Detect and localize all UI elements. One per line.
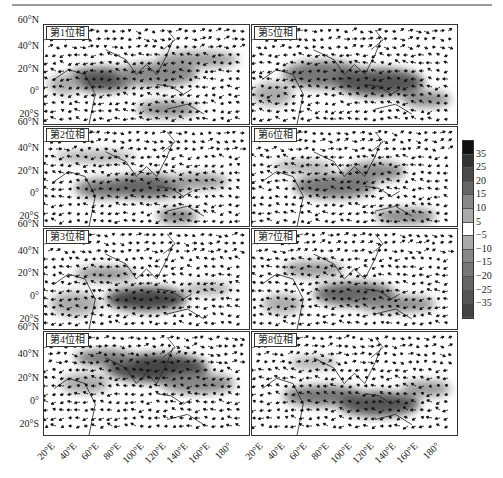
phase-label: 第3位相 bbox=[46, 230, 89, 244]
map-panel-phase-5: 第5位相 bbox=[251, 24, 458, 125]
y-tick-label: 20°N bbox=[3, 373, 39, 383]
colorbar-segment bbox=[463, 182, 473, 196]
y-tick-label: 0° bbox=[3, 291, 39, 301]
y-tick-label: 60°N bbox=[3, 15, 39, 25]
map-field bbox=[252, 229, 457, 329]
colorbar-label: 35 bbox=[476, 149, 486, 159]
y-tick-label: 20°N bbox=[3, 64, 39, 74]
y-tick-label: 20°S bbox=[3, 419, 39, 429]
colorbar-label: −5 bbox=[476, 230, 487, 240]
colorbar-segment bbox=[463, 155, 473, 169]
colorbar-label: 25 bbox=[476, 162, 486, 172]
y-tick-label: 60°N bbox=[3, 322, 39, 332]
map-panel-phase-6: 第6位相 bbox=[251, 126, 458, 227]
map-field bbox=[44, 229, 249, 329]
map-field bbox=[44, 332, 249, 435]
phase-label: 第8位相 bbox=[254, 333, 297, 347]
phase-label: 第5位相 bbox=[254, 26, 297, 40]
colorbar-segment bbox=[463, 141, 473, 155]
y-tick-label: 40°N bbox=[3, 246, 39, 256]
map-panel-phase-1: 第1位相 bbox=[43, 24, 250, 125]
colorbar-label: 20 bbox=[476, 176, 486, 186]
colorbar-segment bbox=[463, 195, 473, 209]
colorbar-segment bbox=[463, 291, 473, 305]
y-tick-label: 0° bbox=[3, 396, 39, 406]
phase-label: 第6位相 bbox=[254, 128, 297, 142]
colorbar-segment bbox=[463, 277, 473, 291]
phase-label: 第2位相 bbox=[46, 128, 89, 142]
colorbar-segment bbox=[463, 168, 473, 182]
phase-label: 第7位相 bbox=[254, 230, 297, 244]
y-tick-label: 20°N bbox=[3, 166, 39, 176]
y-tick-label: 20°N bbox=[3, 268, 39, 278]
y-tick-label: 0° bbox=[3, 86, 39, 96]
colorbar-label: −20 bbox=[476, 271, 492, 281]
map-panel-phase-2: 第2位相 bbox=[43, 126, 250, 227]
map-panel-phase-7: 第7位相 bbox=[251, 228, 458, 330]
colorbar-segment bbox=[463, 250, 473, 264]
y-tick-label: 0° bbox=[3, 188, 39, 198]
colorbar-segment bbox=[463, 263, 473, 277]
colorbar-segment bbox=[463, 236, 473, 250]
colorbar-label: −10 bbox=[476, 244, 492, 254]
y-tick-label: 40°N bbox=[3, 143, 39, 153]
y-tick-label: 40°N bbox=[3, 349, 39, 359]
y-tick-label: 60°N bbox=[3, 117, 39, 127]
colorbar-label: 15 bbox=[476, 189, 486, 199]
colorbar-label: −35 bbox=[476, 298, 492, 308]
map-field bbox=[252, 332, 457, 435]
colorbar-label: 10 bbox=[476, 203, 486, 213]
y-tick-label: 40°N bbox=[3, 41, 39, 51]
colorbar-label: 5 bbox=[476, 217, 481, 227]
map-panel-phase-3: 第3位相 bbox=[43, 228, 250, 330]
phase-label: 第4位相 bbox=[46, 333, 89, 347]
colorbar-label: −15 bbox=[476, 257, 492, 267]
map-panel-phase-8: 第8位相 bbox=[251, 331, 458, 436]
colorbar bbox=[462, 140, 474, 319]
colorbar-segment bbox=[463, 209, 473, 223]
colorbar-segment bbox=[463, 304, 473, 318]
colorbar-segment bbox=[463, 223, 473, 237]
phase-label: 第1位相 bbox=[46, 26, 89, 40]
colorbar-label: −25 bbox=[476, 285, 492, 295]
top-rule bbox=[12, 4, 492, 6]
y-tick-label: 60°N bbox=[3, 219, 39, 229]
map-panel-phase-4: 第4位相 bbox=[43, 331, 250, 436]
